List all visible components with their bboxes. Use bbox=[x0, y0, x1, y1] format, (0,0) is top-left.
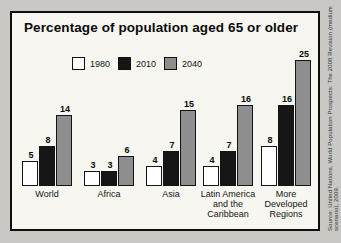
bar-1980: 8 bbox=[261, 146, 277, 186]
bar-2010: 16 bbox=[278, 105, 294, 186]
bar-value-label: 14 bbox=[53, 104, 77, 114]
bar-1980: 3 bbox=[84, 171, 100, 186]
bar-1980: 4 bbox=[203, 166, 219, 186]
bar-2010: 7 bbox=[220, 151, 236, 186]
bar-value-label: 25 bbox=[292, 49, 316, 59]
category-label: More Developed Regions bbox=[241, 189, 331, 219]
source-note: Source: United Nations, World Population… bbox=[327, 0, 339, 231]
bar-2010: 8 bbox=[39, 146, 55, 186]
bar-group-more: 81625More Developed Regions bbox=[246, 60, 326, 186]
bar-1980: 5 bbox=[22, 161, 38, 186]
bar-2010: 7 bbox=[163, 151, 179, 186]
plot-area: 5814World336Africa4715Asia4716Latin Amer… bbox=[12, 13, 318, 186]
bar-2040: 25 bbox=[295, 60, 311, 186]
bar-2010: 3 bbox=[101, 171, 117, 186]
bar-1980: 4 bbox=[146, 166, 162, 186]
chart-frame: Percentage of population aged 65 or olde… bbox=[10, 11, 320, 231]
